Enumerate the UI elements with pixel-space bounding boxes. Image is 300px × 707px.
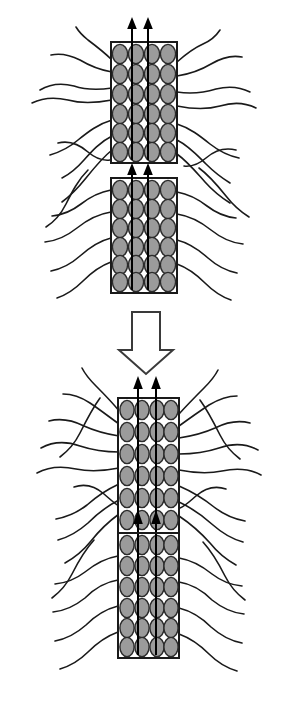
figure-root: [0, 0, 300, 707]
top-upper-block: [111, 42, 177, 163]
top-lower-block: [111, 178, 177, 293]
bottom-upper-block: [118, 398, 179, 533]
bottom-lower-block: [118, 533, 179, 658]
diagram-canvas: [0, 0, 300, 707]
